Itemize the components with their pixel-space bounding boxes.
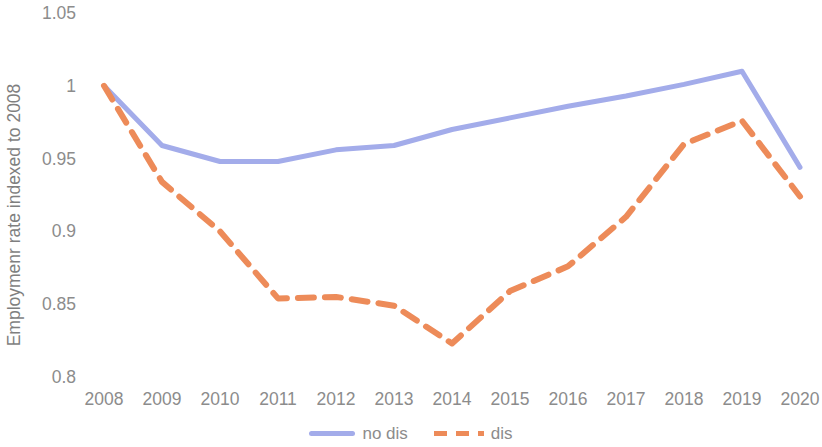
employment-rate-line-chart: Employmenr rate indexed to 2008 1.0510.9… [0,0,822,447]
x-axis-tick-label: 2020 [765,386,822,412]
legend-label: no dis [362,424,407,444]
series-line-dis [104,86,800,344]
legend-label: dis [491,424,513,444]
x-axis-tick-labels: 2008200920102011201220132014201520162017… [0,386,822,414]
series-line-no-dis [104,71,800,167]
legend-swatch-icon [434,431,484,436]
legend-entry-no-dis[interactable]: no dis [309,422,407,446]
legend-swatch-icon [309,431,355,436]
legend-entry-dis[interactable]: dis [434,422,513,446]
plot-canvas [0,0,822,390]
plot-area [0,0,822,390]
chart-legend: no disdis [0,420,822,447]
